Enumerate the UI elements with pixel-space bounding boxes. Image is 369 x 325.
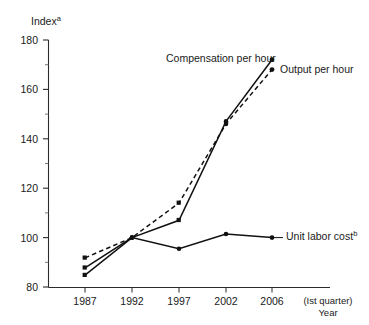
y-tick-label-120: 120 (12, 183, 38, 194)
data-point-output-2006 (270, 67, 275, 72)
series-label-compensation-per-hour: Compensation per hour (166, 53, 276, 64)
x-tick-label-1997: 1997 (158, 296, 200, 307)
x-tick-label-1987: 1987 (64, 296, 106, 307)
series-label-unit-labor-cost: Unit labor costb (286, 231, 357, 242)
data-point-unit-labor-cost-2002 (224, 232, 229, 237)
data-point-unit-labor-cost-1987 (83, 265, 87, 269)
y-axis-title-text: Index (31, 15, 57, 27)
x-axis-title: Year (292, 308, 364, 318)
chart-plot-area (0, 0, 369, 325)
data-point-compensation-2002 (224, 119, 229, 124)
x-tick-label-1992: 1992 (111, 296, 153, 307)
x-tick-label-2006: 2006 (251, 296, 293, 307)
y-tick-label-100: 100 (12, 233, 38, 244)
data-point-unit-labor-cost-1992 (130, 235, 135, 240)
chart-container: 180 160 140 120 100 80 Indexa 1987 1992 … (0, 0, 369, 325)
y-tick-label-140: 140 (12, 134, 38, 145)
y-tick-label-80: 80 (12, 282, 38, 293)
series-label-output-per-hour: Output per hour (280, 64, 354, 75)
y-tick-label-180: 180 (12, 35, 38, 46)
x-tick-label-2002: 2002 (205, 296, 247, 307)
data-point-output-1997 (177, 201, 181, 205)
x-axis-note: (Ist quarter) (292, 296, 364, 306)
y-axis-title-superscript: a (57, 14, 61, 23)
series-line-compensation-per-hour (85, 60, 272, 276)
series-label-unit-labor-cost-superscript: b (353, 229, 357, 238)
data-point-compensation-1997 (177, 218, 181, 222)
series-label-unit-labor-cost-text: Unit labor cost (286, 230, 353, 242)
data-point-compensation-1987 (83, 273, 87, 277)
data-point-output-1987 (83, 256, 87, 260)
data-point-unit-labor-cost-1997 (177, 246, 182, 251)
y-axis-title: Indexa (31, 16, 61, 27)
y-tick-label-160: 160 (12, 84, 38, 95)
